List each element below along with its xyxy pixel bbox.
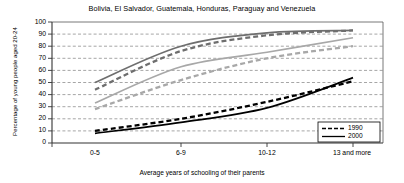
chart-container: Bolivia, El Salvador, Guatemala, Hondura… [0, 0, 404, 183]
series-line [95, 30, 353, 89]
y-axis [48, 22, 52, 143]
series-line [95, 81, 353, 131]
legend-item-1990: 1990 [348, 125, 363, 132]
x-axis [52, 143, 383, 147]
chart-plot-area [0, 0, 404, 183]
series-line [95, 30, 353, 82]
legend-item-2000: 2000 [348, 133, 363, 140]
gridlines [52, 34, 383, 131]
series-line [95, 46, 353, 109]
